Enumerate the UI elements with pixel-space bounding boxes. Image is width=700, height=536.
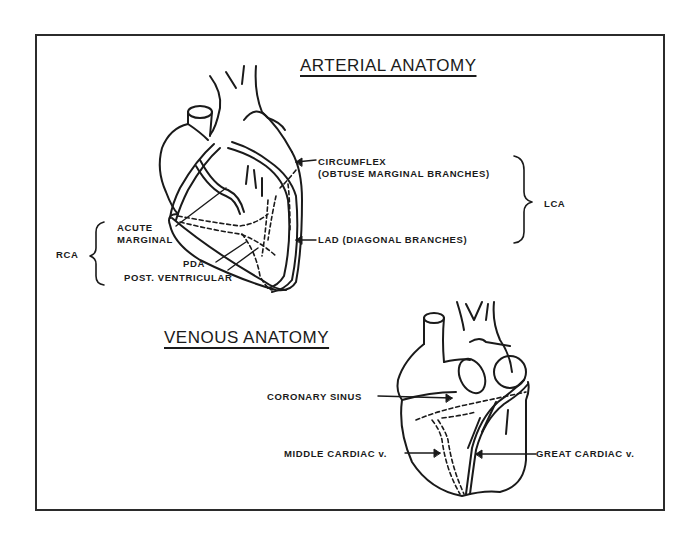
- obtuse-marginal-label: (OBTUSE MARGINAL BRANCHES): [318, 168, 490, 179]
- middle-cardiac-vein-label: MIDDLE CARDIAC v.: [284, 448, 387, 459]
- lad-label: LAD (DIAGONAL BRANCHES): [318, 234, 467, 245]
- great-cardiac-vein-label: GREAT CARDIAC v.: [536, 448, 634, 459]
- lca-label: LCA: [544, 198, 565, 209]
- coronary-sinus-label: CORONARY SINUS: [267, 391, 362, 402]
- circumflex-label: CIRCUMFLEX: [318, 156, 386, 167]
- marginal-label: MARGINAL: [117, 234, 173, 245]
- post-ventricular-label: POST. VENTRICULAR: [124, 272, 232, 283]
- venous-heart-drawing: [378, 302, 536, 496]
- rca-label: RCA: [56, 249, 78, 260]
- arterial-heart-drawing: [90, 66, 532, 292]
- arterial-anatomy-title: ARTERIAL ANATOMY: [300, 56, 476, 76]
- pda-label: PDA: [183, 258, 205, 269]
- venous-anatomy-title: VENOUS ANATOMY: [164, 328, 329, 348]
- acute-label: ACUTE: [117, 222, 153, 233]
